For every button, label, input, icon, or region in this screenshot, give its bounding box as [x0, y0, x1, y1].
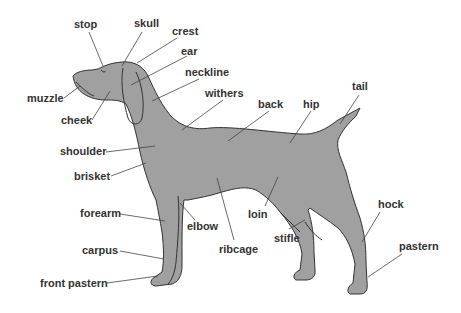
label-front-pastern: front pastern: [40, 277, 108, 289]
leader-line-carpus: [120, 251, 164, 259]
label-stop: stop: [74, 18, 97, 30]
leader-line-withers: [182, 100, 223, 130]
leader-line-pastern: [368, 254, 402, 277]
leader-line-front_pastern: [107, 276, 158, 283]
label-shoulder: shoulder: [60, 145, 106, 157]
leader-line-skull: [122, 32, 142, 66]
label-brisket: brisket: [74, 170, 110, 182]
label-neckline: neckline: [185, 66, 229, 78]
label-back: back: [258, 98, 283, 110]
label-pastern: pastern: [399, 240, 439, 252]
leader-line-brisket: [111, 163, 146, 176]
label-ear: ear: [181, 45, 198, 57]
label-forearm: forearm: [80, 207, 121, 219]
leader-line-hock: [362, 212, 380, 242]
leader-line-neckline: [152, 79, 199, 101]
label-withers: withers: [205, 87, 244, 99]
label-tail: tail: [352, 80, 368, 92]
dog-anatomy-diagram: stop skull crest ear neckline withers ba…: [0, 0, 461, 313]
leader-line-forearm: [120, 214, 165, 221]
label-skull: skull: [134, 17, 159, 29]
leader-line-stop: [89, 32, 103, 66]
leader-line-muzzle: [64, 86, 80, 98]
label-elbow: elbow: [187, 220, 218, 232]
label-cheek: cheek: [61, 114, 92, 126]
label-ribcage: ribcage: [219, 243, 258, 255]
label-loin: loin: [248, 208, 268, 220]
label-hock: hock: [378, 198, 404, 210]
label-stifle: stifle: [274, 232, 300, 244]
label-crest: crest: [172, 25, 198, 37]
leader-line-crest: [137, 38, 177, 63]
label-carpus: carpus: [82, 244, 118, 256]
label-hip: hip: [303, 98, 320, 110]
label-muzzle: muzzle: [27, 92, 64, 104]
